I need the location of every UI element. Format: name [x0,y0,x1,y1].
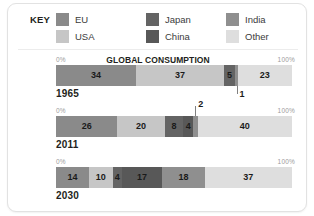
bar-segment-value-callout: 1 [240,89,245,99]
legend-swatch-icon [56,13,69,26]
bar-segment-other[interactable]: 23 [238,65,292,86]
axis-min-label: 0% [56,158,66,165]
legend-swatch-icon [226,13,239,26]
legend-swatch-icon [146,13,159,26]
bar-segment-value: 4 [115,173,120,182]
bar-segment-value: 40 [240,122,250,131]
stacked-bar: 14104171837 [56,167,292,188]
legend-swatch-icon [146,30,159,43]
bar-segment-usa[interactable]: 37 [136,65,223,86]
bar-segment-usa[interactable]: 20 [117,116,164,137]
bar-segment-value: 4 [186,122,191,131]
legend-item-label: China [165,31,190,42]
bar-segment-eu[interactable]: 14 [56,167,89,188]
bar-segment-value: 20 [136,122,146,131]
legend-item-label: India [245,14,266,25]
bar-segment-value: 8 [171,122,176,131]
bar-segment-value: 5 [227,71,232,80]
bar-segment-other[interactable]: 40 [198,116,292,137]
stacked-bar: 3437523 [56,65,292,86]
axis-max-label: 100% [278,158,295,165]
bar-segment-japan[interactable]: 5 [224,65,236,86]
bar-segment-value: 26 [82,122,92,131]
bar-segment-china[interactable]: 4 [183,116,192,137]
bar-segment-value: 37 [175,71,185,80]
bar-year-label: 1965 [56,88,79,99]
axis-max-label: 100% [278,107,295,114]
legend-item-label: Other [245,31,269,42]
bar-segment-india[interactable]: 18 [162,167,204,188]
bar-segment-value: 18 [178,173,188,182]
chart-card: KEY EUUSAJapanChinaIndiaOther GLOBAL CON… [7,3,307,212]
legend-swatch-icon [56,30,69,43]
bar-segment-japan[interactable]: 8 [165,116,184,137]
bar-segment-value-callout: 2 [198,99,203,109]
chart-row-2030: 0%100%141041718372030 [8,158,307,206]
bar-segment-eu[interactable]: 34 [56,65,136,86]
stacked-bar: 26208440 [56,116,292,137]
axis-min-label: 0% [56,107,66,114]
bar-segment-value: 14 [68,173,78,182]
chart-legend: KEY EUUSAJapanChinaIndiaOther [8,4,307,50]
legend-swatch-icon [226,30,239,43]
chart-row-1965: GLOBAL CONSUMPTION0%100%134375231965 [8,56,307,104]
bar-segment-value: 17 [137,173,147,182]
bar-segment-value: 37 [243,173,253,182]
legend-divider [18,49,298,50]
bar-segment-value: 23 [260,71,270,80]
legend-item-label: USA [75,31,95,42]
bar-segment-other[interactable]: 37 [205,167,292,188]
bar-year-label: 2030 [56,190,79,201]
chart-row-2011: 0%100%2262084402011 [8,107,307,155]
bar-segment-china[interactable]: 17 [122,167,162,188]
bar-segment-value: 34 [91,71,101,80]
bar-segment-value: 10 [96,173,106,182]
axis-min-label: 0% [56,56,66,63]
bar-segment-eu[interactable]: 26 [56,116,117,137]
chart-title: GLOBAL CONSUMPTION [8,55,307,65]
legend-item-label: EU [75,14,88,25]
bar-segment-japan[interactable]: 4 [113,167,122,188]
legend-item-label: Japan [165,14,191,25]
bar-year-label: 2011 [56,139,79,150]
axis-max-label: 100% [278,56,295,63]
legend-title: KEY [30,14,50,25]
bar-segment-usa[interactable]: 10 [89,167,113,188]
